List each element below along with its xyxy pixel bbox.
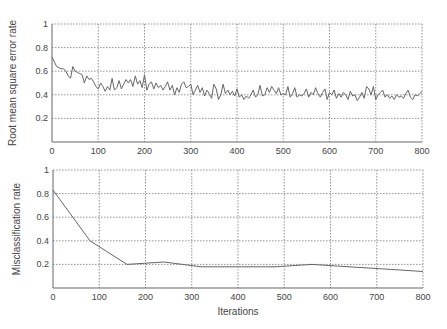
- x-tick-label: 600: [323, 292, 338, 302]
- x-tick-label: 800: [415, 292, 430, 302]
- y-tick-label: 0.8: [35, 43, 48, 53]
- x-tick-label: 300: [183, 146, 198, 156]
- y-axis-label: Misclassification rate: [11, 182, 22, 275]
- rmse-plot: 01002003004005006007008000.20.40.60.81Ro…: [7, 19, 430, 156]
- x-tick-label: 0: [50, 292, 55, 302]
- x-tick-label: 800: [414, 146, 429, 156]
- y-axis-label: Root mean square error rate: [7, 19, 18, 146]
- y-tick-label: 1: [43, 19, 48, 29]
- x-tick-label: 300: [184, 292, 199, 302]
- y-tick-label: 1: [44, 165, 49, 175]
- y-tick-label: 0.2: [35, 113, 48, 123]
- x-tick-label: 500: [277, 292, 292, 302]
- x-tick-label: 600: [322, 146, 337, 156]
- x-axis-label: Iterations: [217, 306, 258, 317]
- chart-figure: 01002003004005006007008000.20.40.60.81Ro…: [0, 0, 447, 329]
- x-tick-label: 700: [368, 146, 383, 156]
- x-tick-label: 200: [138, 292, 153, 302]
- y-tick-label: 0.2: [36, 259, 49, 269]
- y-tick-label: 0.6: [35, 66, 48, 76]
- x-tick-label: 500: [276, 146, 291, 156]
- x-tick-label: 0: [49, 146, 54, 156]
- y-tick-label: 0.4: [36, 236, 49, 246]
- x-tick-label: 100: [91, 146, 106, 156]
- x-tick-label: 200: [137, 146, 152, 156]
- y-tick-label: 0.4: [35, 90, 48, 100]
- x-tick-label: 100: [92, 292, 107, 302]
- x-tick-label: 400: [229, 146, 244, 156]
- y-tick-label: 0.8: [36, 189, 49, 199]
- y-tick-label: 0.6: [36, 212, 49, 222]
- x-tick-label: 700: [369, 292, 384, 302]
- misclassification-plot: 01002003004005006007008000.20.40.60.81Mi…: [11, 165, 431, 317]
- x-tick-label: 400: [230, 292, 245, 302]
